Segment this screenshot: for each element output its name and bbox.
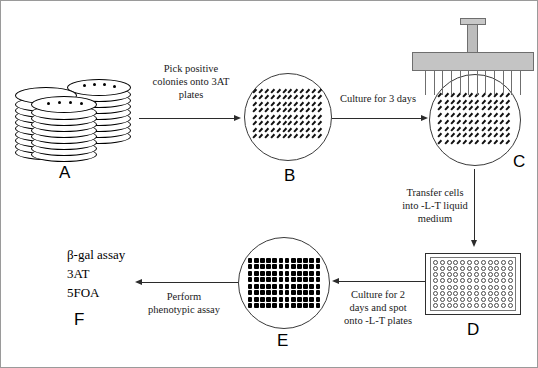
microplate-well (439, 303, 446, 309)
arrow-d-to-e (339, 281, 425, 282)
colony-streak (506, 142, 512, 149)
arrow-head-a-to-b (234, 115, 241, 121)
workflow-figure: A Pick positive colonies onto 3AT plates… (0, 0, 538, 368)
panel-d-well-grid (432, 259, 514, 309)
replica-plater-knob (460, 18, 486, 25)
caption-line: Perform (134, 291, 234, 304)
panel-b-streak-grid (253, 91, 323, 143)
microplate-well (432, 303, 439, 309)
caption-line: Transfer cells (391, 187, 479, 200)
replica-plater-stem (467, 25, 478, 52)
panel-c-streak-grid (438, 95, 512, 149)
microplate-well (466, 303, 473, 309)
colony-dot (103, 83, 106, 86)
caption-d-to-e: Culture for 2 days and spot onto -L-T pl… (331, 289, 425, 327)
caption-line: Culture for 2 (331, 289, 425, 302)
caption-line: into -L-T liquid (391, 200, 479, 213)
colony-streak (317, 137, 323, 144)
replica-plater-block (412, 52, 534, 71)
colony-dot (58, 101, 61, 104)
microplate-well (459, 303, 466, 309)
caption-line: Culture for 3 days (328, 93, 428, 106)
assay-5foa: 5FOA (67, 284, 125, 303)
panel-label-d: D (467, 321, 480, 338)
replica-plater-pins (425, 71, 521, 95)
panel-f-assay-list: β-gal assay 3AT 5FOA (67, 246, 125, 303)
caption-line: phenotypic assay (134, 304, 234, 317)
caption-line: Pick positive (135, 63, 247, 76)
caption-b-to-c: Culture for 3 days (328, 93, 428, 106)
caption-line: medium (391, 213, 479, 226)
arrow-head-e-to-f (135, 279, 142, 285)
colony-dot (80, 102, 83, 105)
caption-a-to-b: Pick positive colonies onto 3AT plates (135, 63, 247, 101)
caption-line: onto -L-T plates (331, 315, 425, 328)
panel-label-e: E (277, 332, 289, 349)
microplate-well (480, 303, 487, 309)
colony-dot (47, 102, 50, 105)
panel-e-dot-grid (247, 257, 321, 309)
caption-line: colonies onto 3AT (135, 76, 247, 89)
arrow-a-to-b (139, 118, 235, 119)
arrow-b-to-c (332, 118, 422, 119)
panel-label-f: F (74, 311, 85, 328)
microplate-well (446, 303, 453, 309)
microplate-well (473, 303, 480, 309)
dish-stack-front (31, 91, 97, 163)
panel-label-b: B (284, 167, 296, 184)
microplate-well (500, 303, 507, 309)
arrow-e-to-f (142, 282, 238, 283)
microplate-well (507, 303, 514, 309)
colony-dot (113, 85, 116, 88)
assay-beta-gal: β-gal assay (67, 246, 125, 265)
caption-c-to-d: Transfer cells into -L-T liquid medium (391, 187, 479, 225)
colony-dot (83, 84, 86, 87)
caption-e-to-f: Perform phenotypic assay (134, 291, 234, 317)
arrow-head-d-to-e (332, 278, 339, 284)
panel-label-a: A (59, 164, 71, 181)
assay-3at: 3AT (67, 265, 125, 284)
caption-line: plates (135, 89, 247, 102)
arrow-head-c-to-d (471, 240, 477, 247)
microplate-well (453, 303, 460, 309)
arrow-head-b-to-c (421, 115, 428, 121)
microplate-well (494, 303, 501, 309)
caption-line: days and spot (331, 302, 425, 315)
microplate-well (487, 303, 494, 309)
arrow-c-to-d (474, 169, 475, 241)
panel-label-c: C (513, 153, 526, 170)
colony-dot (93, 83, 96, 86)
colony-spot (315, 303, 321, 310)
colony-dot (69, 101, 72, 104)
panel-a-dish-stacks (15, 73, 131, 163)
